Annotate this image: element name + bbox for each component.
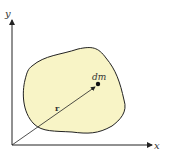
dm-label: dm [92,72,106,82]
rigid-body [23,48,125,134]
x-axis-label: x [154,140,160,151]
diagram: y x dm r [0,0,169,154]
mass-element-dot [96,82,100,86]
y-axis-label: y [4,8,11,19]
